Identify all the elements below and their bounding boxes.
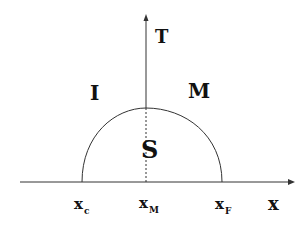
svg-text:M: M — [149, 205, 159, 215]
region-label-m: M — [188, 79, 210, 103]
svg-text:c: c — [84, 206, 90, 216]
t-axis-label: T — [155, 26, 169, 47]
svg-text:x: x — [74, 195, 84, 213]
tick-label-xf: x F — [215, 195, 232, 216]
tick-label-xm: x M — [139, 194, 159, 215]
tick-label-xc: x c — [74, 195, 90, 216]
region-label-i: I — [90, 81, 99, 105]
svg-text:x: x — [139, 194, 149, 212]
x-axis-label: x — [268, 193, 279, 214]
phase-diagram: T x I M S x c x M x F — [0, 0, 308, 229]
svg-text:x: x — [215, 195, 225, 213]
region-label-s: S — [141, 135, 158, 164]
svg-text:F: F — [225, 206, 232, 216]
t-axis-arrow-icon — [144, 14, 149, 21]
x-axis-arrow-icon — [288, 179, 295, 185]
